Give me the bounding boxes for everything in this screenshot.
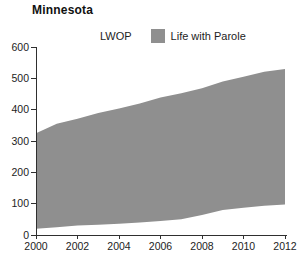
y-tick-label: 500 <box>11 72 29 84</box>
x-tick-label: 2002 <box>66 240 90 252</box>
area-chart: 0100200300400500600200020022004200620082… <box>0 0 301 258</box>
y-tick-label: 0 <box>23 229 29 241</box>
y-tick-label: 400 <box>11 103 29 115</box>
x-tick-label: 2000 <box>24 240 48 252</box>
x-tick-label: 2004 <box>107 240 131 252</box>
plot-areas <box>36 69 285 235</box>
x-tick-label: 2010 <box>232 240 256 252</box>
y-tick-label: 200 <box>11 166 29 178</box>
y-tick-label: 300 <box>11 135 29 147</box>
area-series-1 <box>36 69 285 229</box>
x-tick-label: 2008 <box>190 240 214 252</box>
y-tick-label: 100 <box>11 197 29 209</box>
y-tick-label: 600 <box>11 41 29 53</box>
chart-panel: Minnesota LWOP Life with Parole 01002003… <box>0 0 301 258</box>
x-tick-label: 2006 <box>149 240 173 252</box>
x-tick-label: 2012 <box>273 240 297 252</box>
